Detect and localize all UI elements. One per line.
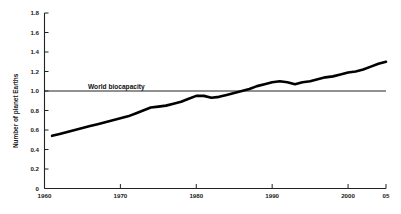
x-tick-label: 1960	[38, 192, 52, 199]
chart-background	[0, 0, 401, 214]
y-tick-label: 1.0	[30, 87, 39, 94]
x-tick-label: 1970	[114, 192, 128, 199]
world-biocapacity-label: World biocapacity	[88, 83, 145, 91]
y-tick-label: 0.6	[30, 126, 39, 133]
x-tick-label: 1980	[189, 192, 203, 199]
x-tick-label: 2000	[341, 192, 355, 199]
y-tick-label: 1.8	[30, 9, 39, 16]
y-tick-label: 1.4	[30, 48, 39, 55]
x-tick-label: 05	[383, 192, 390, 199]
y-tick-label: 0.4	[30, 146, 39, 153]
y-tick-label: 1.6	[30, 29, 39, 36]
line-chart: 00.20.40.60.81.01.21.41.61.8 19601970198…	[0, 0, 401, 214]
y-tick-label: 1.2	[30, 68, 39, 75]
y-tick-label: 0.8	[30, 107, 39, 114]
y-tick-label: 0	[36, 185, 40, 192]
chart-container: 00.20.40.60.81.01.21.41.61.8 19601970198…	[0, 0, 401, 214]
y-axis-title: Number of planet Earths	[12, 73, 20, 148]
x-tick-label: 1990	[265, 192, 279, 199]
y-tick-label: 0.2	[30, 165, 39, 172]
